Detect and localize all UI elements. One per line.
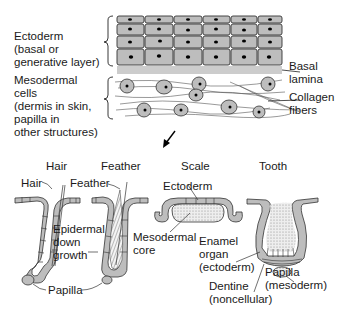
ectoderm-cells: [117, 16, 282, 65]
basal-lamina-label: Basal lamina: [289, 60, 323, 86]
ectoderm-label: Ectoderm (basal or generative layer): [14, 30, 100, 69]
feather-papilla: [102, 276, 112, 284]
title-scale: Scale: [181, 160, 210, 173]
enamel-organ-label: Enamel organ (ectoderm): [199, 235, 255, 274]
feather-label: Feather: [70, 177, 110, 190]
down-arrow-icon: [163, 131, 175, 148]
title-tooth: Tooth: [259, 160, 287, 173]
ectoderm-brace: [104, 16, 113, 66]
hair-papilla: [22, 275, 34, 285]
papilla-label: Papilla: [48, 284, 83, 297]
epidermal-down-growth-label: Epidermal down growth: [53, 223, 105, 262]
title-hair: Hair: [46, 160, 67, 173]
scale-mesodermal-core: [172, 204, 224, 222]
mesodermal-core-label: Mesodermal core: [133, 231, 196, 257]
collagen-fibers-label: Collagen fibers: [289, 91, 334, 117]
basal-lamina: [117, 67, 300, 73]
dentine-label: Dentine (noncellular): [209, 280, 272, 306]
mesodermal-cells-label: Mesodermal cells (dermis in skin, papill…: [14, 74, 98, 139]
hair-label: Hair: [21, 177, 42, 190]
ectoderm-scale-label: Ectoderm: [163, 180, 212, 193]
tooth-papilla-label: Papilla (mesoderm): [265, 266, 327, 292]
mesoderm-brace: [104, 77, 113, 119]
title-feather: Feather: [101, 160, 141, 173]
tooth-pulp: [266, 203, 296, 252]
